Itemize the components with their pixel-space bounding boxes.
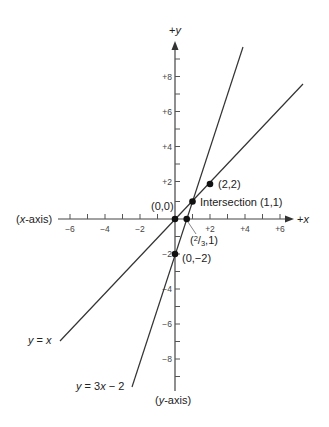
line-label-y-equals-x: y = x <box>27 334 52 346</box>
y-axis-label: (y-axis) <box>155 394 191 406</box>
point-two-thirds <box>183 216 190 223</box>
label-intersection: Intersection (1,1) <box>200 196 283 208</box>
y-tick-label: −6 <box>162 319 172 329</box>
plus-y-label: +y <box>169 24 182 36</box>
point-0-minus-2 <box>172 251 179 258</box>
x-tick-label: +2 <box>205 224 215 234</box>
x-axis-label: (x-axis) <box>16 213 52 225</box>
x-axis-arrow-icon <box>285 216 294 223</box>
point-origin <box>172 216 179 223</box>
y-tick-label: +6 <box>162 107 172 117</box>
y-tick-label: −8 <box>162 354 172 364</box>
label-origin: (0,0) <box>151 200 174 212</box>
label-two-thirds: (2/3,1) <box>190 234 218 248</box>
label-0-minus-2: (0,−2) <box>182 252 211 264</box>
point-2-2 <box>207 181 214 188</box>
x-tick-label: +4 <box>240 224 250 234</box>
label-2-2: (2,2) <box>218 178 241 190</box>
x-tick-label: −6 <box>65 224 75 234</box>
x-tick-label: −2 <box>135 224 145 234</box>
y-tick-label: −2 <box>162 249 172 259</box>
y-tick-label: +2 <box>162 177 172 187</box>
x-tick-label: −4 <box>100 224 110 234</box>
line-y-equals-x <box>60 84 303 341</box>
y-tick-label: +8 <box>162 72 172 82</box>
plus-x-label: +x <box>297 213 309 225</box>
y-axis-arrow-icon <box>172 41 179 50</box>
point-intersection <box>189 198 196 205</box>
x-tick-label: +6 <box>275 224 285 234</box>
y-tick-label: +4 <box>162 142 172 152</box>
line-label-y-equals-3x-minus-2: y = 3x − 2 <box>75 380 124 392</box>
label-leader-line <box>188 222 196 234</box>
coordinate-plane: −6 −4 −2 +2 +4 +6 +8 +6 +4 +2 −2 −4 −6 −… <box>0 0 329 427</box>
